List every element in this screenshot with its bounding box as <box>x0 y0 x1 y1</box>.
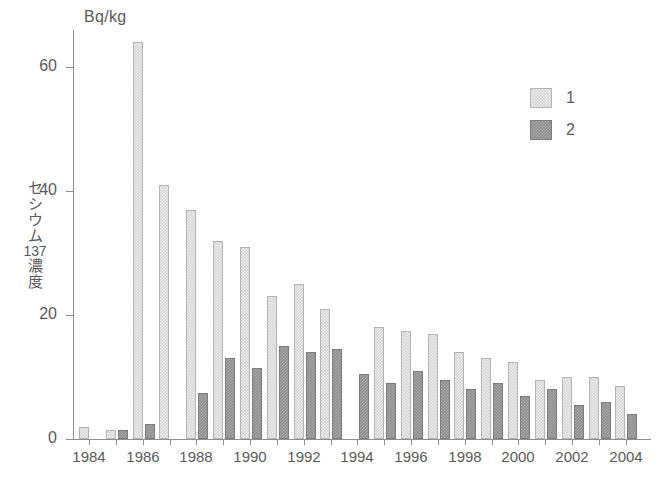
y-axis-title-char-2: ウ <box>28 212 43 228</box>
x-tick-label-1986: 1986 <box>113 448 173 465</box>
bar-series2-1985 <box>118 430 128 439</box>
bar-series1-2003 <box>589 377 599 439</box>
bar-series2-1995 <box>386 383 396 439</box>
legend-swatch-1 <box>530 88 552 108</box>
y-axis-title-char-5: 濃 <box>28 258 43 274</box>
legend-label-1: 1 <box>566 89 575 107</box>
bar-series2-1998 <box>466 389 476 439</box>
x-tick-label-2004: 2004 <box>596 448 656 465</box>
x-tick-label-1996: 1996 <box>381 448 441 465</box>
y-tick-20 <box>66 315 73 316</box>
bar-series2-1991 <box>279 346 289 439</box>
x-tick-2002 <box>572 440 573 445</box>
x-tick-label-1988: 1988 <box>166 448 226 465</box>
x-tick-1993 <box>331 440 332 445</box>
x-tick-1995 <box>384 440 385 445</box>
bar-series1-1986 <box>133 42 143 439</box>
y-tick-40 <box>66 191 73 192</box>
bar-series2-1994 <box>359 374 369 439</box>
bar-series1-1996 <box>401 331 411 439</box>
x-tick-1990 <box>250 440 251 445</box>
bar-series2-1990 <box>252 368 262 439</box>
bar-series1-1985 <box>106 430 116 439</box>
x-tick-2000 <box>518 440 519 445</box>
bar-series1-1984 <box>79 427 89 439</box>
bar-series2-1999 <box>493 383 503 439</box>
bar-series1-1992 <box>294 284 304 439</box>
x-tick-2001 <box>545 440 546 445</box>
bar-series2-1988 <box>198 393 208 439</box>
legend-item-1: 1 <box>530 88 575 108</box>
bar-series2-1996 <box>413 371 423 439</box>
bar-series1-1993 <box>320 309 330 439</box>
bar-series2-2004 <box>627 414 637 439</box>
bar-series2-1997 <box>440 380 450 439</box>
x-tick-1999 <box>492 440 493 445</box>
bar-series2-2003 <box>601 402 611 439</box>
legend-item-2: 2 <box>530 120 575 140</box>
x-tick-label-1984: 1984 <box>59 448 119 465</box>
x-axis-line <box>73 439 651 440</box>
x-tick-1986 <box>143 440 144 445</box>
x-tick-1997 <box>438 440 439 445</box>
x-tick-1996 <box>411 440 412 445</box>
x-tick-1998 <box>465 440 466 445</box>
bar-series1-1990 <box>240 247 250 439</box>
bar-series2-1986 <box>145 424 155 439</box>
bar-series1-2001 <box>535 380 545 439</box>
x-tick-label-1992: 1992 <box>274 448 334 465</box>
legend: 12 <box>530 88 575 140</box>
x-tick-label-1994: 1994 <box>327 448 387 465</box>
bar-series1-2000 <box>508 362 518 439</box>
bar-series1-1987 <box>159 185 169 439</box>
legend-label-2: 2 <box>566 121 575 139</box>
y-axis-line <box>73 30 74 440</box>
y-axis-title-char-6: 度 <box>28 274 43 290</box>
x-tick-label-2000: 2000 <box>488 448 548 465</box>
bar-series1-1998 <box>454 352 464 439</box>
y-axis-title-char-4: 137 <box>24 244 47 259</box>
x-tick-label-1998: 1998 <box>435 448 495 465</box>
bar-series2-1993 <box>332 349 342 439</box>
bar-series2-2000 <box>520 396 530 439</box>
bar-series2-1989 <box>225 358 235 439</box>
x-tick-1984 <box>89 440 90 445</box>
y-tick-label-20: 20 <box>17 305 57 323</box>
bar-series1-1991 <box>267 296 277 439</box>
bar-series1-2004 <box>615 386 625 439</box>
x-tick-1994 <box>357 440 358 445</box>
bar-series1-2002 <box>562 377 572 439</box>
y-tick-label-60: 60 <box>17 57 57 75</box>
legend-swatch-2 <box>530 120 552 140</box>
y-tick-0 <box>66 439 73 440</box>
x-tick-2004 <box>626 440 627 445</box>
x-tick-1992 <box>304 440 305 445</box>
bar-series1-1995 <box>374 327 384 439</box>
bar-series1-1997 <box>428 334 438 439</box>
bar-series2-2001 <box>547 389 557 439</box>
bar-series2-2002 <box>574 405 584 439</box>
x-tick-1987 <box>170 440 171 445</box>
bar-series2-1992 <box>306 352 316 439</box>
chart-figure: Bq/kg セ シ ウ ム 137 濃 度 0204060 1984198619… <box>0 0 665 497</box>
x-tick-label-1990: 1990 <box>220 448 280 465</box>
y-tick-label-40: 40 <box>17 181 57 199</box>
bar-series1-1999 <box>481 358 491 439</box>
x-tick-1991 <box>277 440 278 445</box>
x-tick-label-2002: 2002 <box>542 448 602 465</box>
x-tick-1985 <box>116 440 117 445</box>
unit-caption: Bq/kg <box>84 8 126 26</box>
y-tick-60 <box>66 67 73 68</box>
x-tick-1988 <box>196 440 197 445</box>
x-tick-2003 <box>599 440 600 445</box>
x-tick-1989 <box>223 440 224 445</box>
y-axis-title-char-3: ム <box>28 228 43 244</box>
bar-series1-1989 <box>213 241 223 439</box>
y-tick-label-0: 0 <box>17 429 57 447</box>
bar-series1-1988 <box>186 210 196 439</box>
